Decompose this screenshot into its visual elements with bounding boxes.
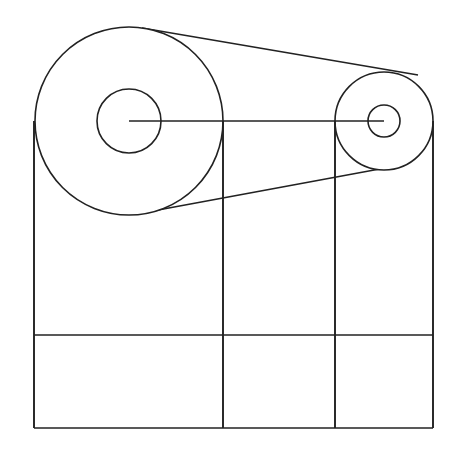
pulley-belt-diagram [0,0,456,457]
